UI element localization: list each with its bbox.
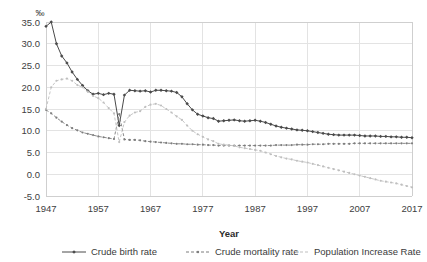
data-point xyxy=(97,135,99,137)
data-point xyxy=(317,164,319,166)
chart-container: -5.00.05.010.015.020.025.030.035.0 19471… xyxy=(0,0,427,262)
data-point xyxy=(66,124,68,126)
data-point xyxy=(112,93,115,96)
data-point xyxy=(197,133,199,135)
data-point xyxy=(265,151,267,153)
data-point xyxy=(154,89,157,92)
y-tick-label: 0.0 xyxy=(27,169,40,180)
data-point xyxy=(92,95,94,97)
data-point xyxy=(338,143,340,145)
data-point xyxy=(107,92,110,95)
x-axis-tick-labels: 19471957196719771987199720072017 xyxy=(35,203,422,214)
data-point xyxy=(144,140,146,142)
data-point xyxy=(82,131,84,133)
data-point xyxy=(380,180,382,182)
data-point xyxy=(50,86,52,88)
data-point xyxy=(61,121,63,123)
legend-label: Population Increase Rate xyxy=(314,246,421,257)
data-point xyxy=(280,144,282,146)
data-point xyxy=(149,104,151,106)
data-point xyxy=(238,119,241,122)
data-point xyxy=(223,144,225,146)
data-point xyxy=(165,142,167,144)
data-point xyxy=(159,89,162,92)
data-point xyxy=(181,119,183,121)
series-lines xyxy=(44,20,413,188)
data-point xyxy=(233,145,235,147)
data-point xyxy=(71,127,73,129)
data-point xyxy=(364,176,366,178)
data-point xyxy=(411,142,413,144)
legend-item-3[interactable]: Population Increase Rate xyxy=(285,246,421,257)
data-point xyxy=(312,143,314,145)
legend-marker xyxy=(197,251,199,253)
data-point xyxy=(406,185,408,187)
data-point xyxy=(186,143,188,145)
data-point xyxy=(322,165,324,167)
data-point xyxy=(118,113,120,115)
x-tick-label: 1977 xyxy=(192,203,213,214)
legend-item-1[interactable]: Crude birth rate xyxy=(62,246,157,257)
data-point xyxy=(358,134,361,137)
series-2 xyxy=(45,109,413,147)
data-point xyxy=(400,184,402,186)
chart-legend: Crude birth rateCrude mortality ratePopu… xyxy=(62,246,421,257)
data-point xyxy=(233,118,236,121)
data-point xyxy=(118,124,121,127)
data-point xyxy=(227,119,230,122)
data-point xyxy=(321,132,324,135)
data-point xyxy=(134,139,136,141)
data-point xyxy=(248,119,251,122)
data-point xyxy=(243,119,246,122)
data-point xyxy=(296,144,298,146)
data-point xyxy=(301,161,303,163)
data-point xyxy=(411,186,413,188)
data-point xyxy=(374,178,376,180)
data-point xyxy=(170,89,173,92)
legend-label: Crude mortality rate xyxy=(215,246,298,257)
data-point xyxy=(206,116,209,119)
data-point xyxy=(222,119,225,122)
data-point xyxy=(400,136,403,139)
data-point xyxy=(343,171,345,173)
data-point xyxy=(176,143,178,145)
data-point xyxy=(353,133,356,136)
data-point xyxy=(113,138,115,140)
data-point xyxy=(390,181,392,183)
data-point xyxy=(87,91,89,93)
data-point xyxy=(406,142,408,144)
y-axis-tick-labels: -5.00.05.010.015.020.025.030.035.0 xyxy=(22,17,41,202)
data-point xyxy=(306,144,308,146)
data-point xyxy=(348,133,351,136)
data-point xyxy=(71,80,73,82)
x-tick-label: 2017 xyxy=(401,203,422,214)
data-point xyxy=(312,163,314,165)
data-point xyxy=(332,143,334,145)
data-point xyxy=(102,136,104,138)
data-point xyxy=(55,117,57,119)
data-point xyxy=(332,133,335,136)
data-point xyxy=(244,147,246,149)
grid-lines xyxy=(46,22,412,196)
data-point xyxy=(380,142,382,144)
data-point xyxy=(238,146,240,148)
data-point xyxy=(102,101,104,103)
legend-marker xyxy=(296,251,298,253)
data-point xyxy=(113,112,115,114)
data-point xyxy=(270,153,272,155)
data-point xyxy=(410,136,413,139)
data-point xyxy=(170,111,172,113)
data-point xyxy=(364,142,366,144)
data-point xyxy=(212,140,214,142)
data-point xyxy=(253,119,256,122)
data-point xyxy=(343,143,345,145)
y-tick-label: 30.0 xyxy=(22,38,41,49)
data-point xyxy=(217,143,219,145)
data-point xyxy=(385,142,387,144)
data-point xyxy=(269,123,272,126)
data-point xyxy=(259,150,261,152)
legend-item-2[interactable]: Crude mortality rate xyxy=(186,246,298,257)
y-tick-label: 10.0 xyxy=(22,125,41,136)
data-point xyxy=(45,108,47,110)
data-point xyxy=(327,133,330,136)
